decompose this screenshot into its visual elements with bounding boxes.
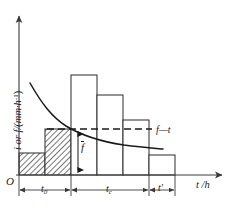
segment-label-tprime: t′ bbox=[158, 183, 163, 195]
figure-container: i or f/(mm·h-1) O t /h f—t f t0 tc t′ bbox=[0, 0, 235, 211]
bar-2-hatched bbox=[45, 129, 71, 175]
segment-label-tc: tc bbox=[106, 184, 112, 196]
f-bar-label: f bbox=[81, 142, 84, 153]
bar-4-open bbox=[97, 95, 123, 175]
f-t-curve-label: f—t bbox=[156, 125, 170, 135]
bar-1-hatched bbox=[19, 153, 45, 175]
bar-6-open bbox=[149, 155, 175, 175]
segment-label-t0: t0 bbox=[41, 184, 47, 196]
x-axis-label: t /h bbox=[196, 180, 210, 191]
bar-3-open bbox=[71, 75, 97, 175]
bar-group bbox=[19, 75, 175, 175]
y-axis-label: i or f/(mm·h-1) bbox=[13, 91, 24, 150]
origin-label: O bbox=[6, 176, 14, 187]
